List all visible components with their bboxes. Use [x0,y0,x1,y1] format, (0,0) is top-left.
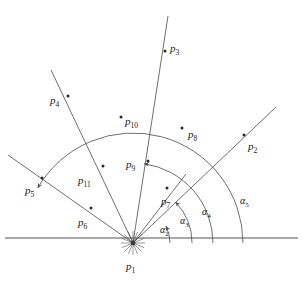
point-label-index: 11 [84,180,91,189]
angle-label-index: 4 [207,212,211,220]
point-label-p10: p10 [125,116,138,130]
angle-label-index: 2 [165,230,169,238]
point-label-index: 6 [84,222,88,231]
point-label-p5: p5 [25,185,34,199]
point-dot-p4 [67,95,70,98]
point-label-p2: p2 [248,141,257,155]
point-label-index: 5 [31,190,35,199]
point-label-p4: p4 [50,95,59,109]
point-label-p8: p8 [188,129,197,143]
point-label-index: 1 [132,266,136,275]
arc-alpha4 [144,164,213,243]
ray-p2 [133,107,276,243]
point-label-p9: p9 [126,159,135,173]
point-label-p6: p6 [78,217,87,231]
point-label-index: 4 [56,100,60,109]
point-label-index: 9 [132,164,136,173]
ray-p4 [51,70,133,243]
point-label-p3: p3 [170,43,179,57]
point-label-p7: p7 [161,196,170,210]
point-dot-p5 [41,177,44,180]
point-dot-p3 [164,50,167,53]
point-dot-p7 [166,187,169,190]
point-dot-p11 [102,165,105,168]
ray-p5 [8,155,133,243]
point-label-p1: p1 [126,261,135,275]
point-label-index: 7 [167,201,171,210]
angle-label-arc-alpha2: α2 [160,225,169,238]
angle-diagram: p1p2p3p4p5p6p7p8p9p10p11 α2α3α4α5 [0,0,308,284]
angle-label-arc-alpha4: α4 [202,207,211,220]
point-dot-p10 [120,116,123,119]
diagram-canvas [0,0,308,284]
point-label-index: 3 [176,48,180,57]
point-label-index: 2 [254,146,258,155]
point-dot-p6 [90,207,93,210]
angle-label-arc-alpha5: α5 [240,196,249,209]
arc-alpha5 [38,133,243,243]
point-label-index: 8 [194,134,198,143]
angle-label-index: 5 [245,201,249,209]
point-dot-p2 [243,134,246,137]
angle-label-index: 3 [185,221,189,229]
point-label-index: 10 [131,121,139,130]
point-label-p11: p11 [78,175,91,189]
vertex-dot-p1 [131,241,136,246]
point-dot-p9 [147,160,150,163]
point-dot-p8 [181,127,184,130]
angle-label-arc-alpha3: α3 [180,216,189,229]
